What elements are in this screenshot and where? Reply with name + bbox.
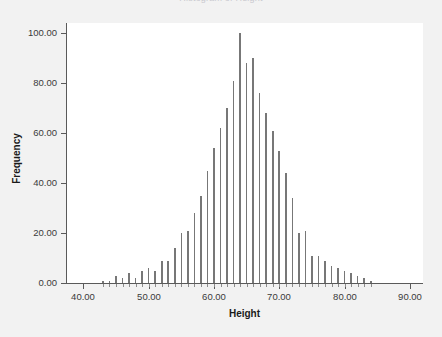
y-tick-label: 20.00 [0,228,57,238]
x-minor-tick [371,284,372,287]
bar [272,131,274,284]
x-tick-label: 60.00 [184,292,244,302]
bar [213,148,215,283]
x-minor-tick [247,284,248,287]
bar [167,261,169,284]
bar [148,268,150,283]
y-tick [61,283,66,284]
x-minor-tick [240,284,241,287]
x-minor-tick [221,284,222,287]
bar [207,171,209,284]
x-minor-tick [175,284,176,287]
x-minor-tick [325,284,326,287]
y-tick-label: 60.00 [0,128,57,138]
bar [233,81,235,284]
x-minor-tick [162,284,163,287]
bar [115,276,117,284]
bar [285,173,287,283]
x-minor-tick [234,284,235,287]
x-tick-label: 40.00 [53,292,113,302]
x-axis-title: Height [66,308,423,319]
histogram-chart: Histogram of Height 0.0020.0040.0060.008… [0,0,442,337]
x-minor-tick [358,284,359,287]
x-axis-line [66,283,423,284]
bar [278,151,280,284]
y-tick-label: 80.00 [0,78,57,88]
bar [161,261,163,284]
x-minor-tick [364,284,365,287]
bar [298,233,300,283]
x-minor-tick [292,284,293,287]
x-minor-tick [103,284,104,287]
bar [200,196,202,284]
x-minor-tick [116,284,117,287]
x-minor-tick [299,284,300,287]
bar [239,33,241,283]
x-tick-label: 80.00 [315,292,375,302]
x-minor-tick [253,284,254,287]
x-tick-label: 90.00 [380,292,440,302]
bar [246,63,248,283]
x-minor-tick [168,284,169,287]
x-minor-tick [201,284,202,287]
bar [187,231,189,284]
y-tick [61,83,66,84]
x-tick-label: 70.00 [249,292,309,302]
x-minor-tick [345,284,346,287]
y-tick [61,183,66,184]
bar [337,268,339,283]
data-series-frequency [67,23,423,283]
x-minor-tick [142,284,143,287]
x-minor-tick [227,284,228,287]
plot-area [67,23,423,283]
bar [350,273,352,283]
bar [154,271,156,284]
bar [292,198,294,283]
bar [265,113,267,283]
bar [194,213,196,283]
x-minor-tick [338,284,339,287]
y-tick [61,33,66,34]
x-minor-tick [194,284,195,287]
x-minor-tick [273,284,274,287]
bar [305,231,307,284]
bar [318,256,320,284]
bar [324,261,326,284]
x-minor-tick [260,284,261,287]
bar [141,271,143,284]
x-minor-tick [312,284,313,287]
x-minor-tick [136,284,137,287]
y-axis-title: Frequency [11,99,22,219]
x-minor-tick [123,284,124,287]
x-minor-tick [332,284,333,287]
x-minor-tick [109,284,110,287]
x-minor-tick [181,284,182,287]
y-tick [61,233,66,234]
y-tick-label: 100.00 [0,28,57,38]
y-tick-label: 40.00 [0,178,57,188]
x-tick [83,284,84,289]
bar [226,108,228,283]
x-minor-tick [214,284,215,287]
bar [259,93,261,283]
bar [344,271,346,284]
bar [181,233,183,283]
bar [331,266,333,284]
bar [128,273,130,283]
x-minor-tick [305,284,306,287]
bar [357,276,359,284]
x-tick-label: 50.00 [119,292,179,302]
x-minor-tick [155,284,156,287]
x-minor-tick [286,284,287,287]
y-axis-line [66,23,67,284]
y-tick [61,133,66,134]
x-minor-tick [318,284,319,287]
x-minor-tick [351,284,352,287]
y-tick-label: 0.00 [0,278,57,288]
x-tick [410,284,411,289]
chart-title: Histogram of Height [0,0,442,3]
x-minor-tick [149,284,150,287]
x-minor-tick [266,284,267,287]
bar [174,248,176,283]
x-minor-tick [279,284,280,287]
